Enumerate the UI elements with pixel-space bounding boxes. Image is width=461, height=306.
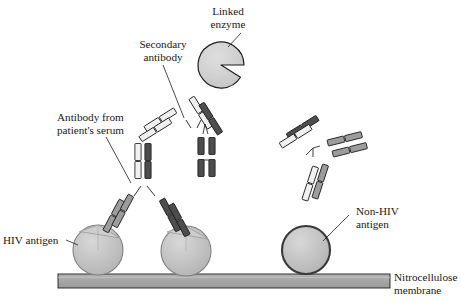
secondary-antibody-label-line1: Secondary	[139, 38, 187, 50]
linked-enzyme-label-line2: enzyme	[211, 18, 246, 30]
secondary-antibody-enzyme-linked	[139, 96, 223, 142]
leader-linked-enzyme	[228, 33, 241, 47]
label-patient-antibody: Antibody from patient's serum	[57, 111, 124, 136]
label-hiv-antigen: HIV antigen	[3, 234, 59, 246]
patient-antibody-label-line2: patient's serum	[57, 124, 124, 136]
secondary-antibody-label-line2: antibody	[143, 51, 183, 63]
membrane-label-line2: membrane	[394, 284, 441, 296]
secondary-antibody-unbound	[198, 124, 215, 177]
immunoassay-diagram-canvas: Linked enzyme Secondary antibody Antibod…	[0, 0, 461, 306]
linked-enzyme-label-line1: Linked	[212, 5, 244, 17]
hiv-antigen-left	[73, 225, 123, 275]
patient-antibody-label-line1: Antibody from	[57, 111, 124, 123]
nitrocellulose-membrane	[58, 274, 390, 288]
non-hiv-antigen-label-line2: antigen	[356, 218, 389, 230]
leader-patient-antibody	[106, 137, 131, 183]
leader-non-hiv-antigen	[323, 215, 349, 241]
label-secondary-antibody: Secondary antibody	[139, 38, 187, 63]
label-nitrocellulose-membrane: Nitrocellulose membrane	[394, 271, 457, 296]
non-hiv-antigen-label-line1: Non-HIV	[356, 205, 399, 217]
free-antibody-complex	[279, 115, 367, 201]
immunoassay-figure: Linked enzyme Secondary antibody Antibod…	[0, 0, 461, 306]
hiv-antigen-label: HIV antigen	[3, 234, 59, 246]
label-linked-enzyme: Linked enzyme	[211, 5, 246, 30]
membrane-label-line1: Nitrocellulose	[394, 271, 457, 283]
non-hiv-antigen	[282, 226, 330, 274]
linked-enzyme	[198, 42, 244, 88]
label-non-hiv-antigen: Non-HIV antigen	[356, 205, 399, 230]
patient-antibody-bound	[103, 144, 190, 237]
